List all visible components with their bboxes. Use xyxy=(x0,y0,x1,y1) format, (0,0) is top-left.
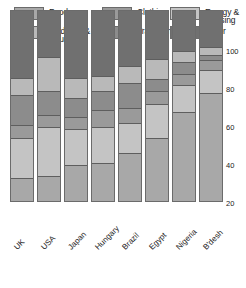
bar-segment xyxy=(11,178,33,201)
bar-segment xyxy=(92,110,114,127)
stacked-bar xyxy=(145,10,169,202)
bar-segment xyxy=(11,95,33,125)
bar-segment xyxy=(173,51,195,62)
bar-segment xyxy=(200,11,222,47)
bar-segment xyxy=(146,11,168,59)
stacked-bar xyxy=(37,10,61,202)
bar-segment xyxy=(173,85,195,112)
x-axis-category-labels: UKUSAJapanHungaryBrazilEgyptNigeriaB'des… xyxy=(0,244,246,288)
stacked-bar-plot-area xyxy=(0,48,246,248)
bar-segment xyxy=(38,176,60,201)
bar-segment xyxy=(146,79,168,90)
y-axis-tick-label: 100 xyxy=(226,48,239,56)
y-axis: 10080604020 xyxy=(220,48,246,248)
bar-segment xyxy=(38,11,60,57)
y-axis-tick-label: 40 xyxy=(226,162,234,170)
bar-segment xyxy=(173,11,195,51)
bar-segment xyxy=(146,138,168,201)
bar-segment xyxy=(146,104,168,138)
bar-segment xyxy=(92,163,114,201)
bar-segment xyxy=(11,125,33,138)
bar-segment xyxy=(65,129,87,165)
y-axis-tick-label: 20 xyxy=(226,200,234,208)
bar-segment xyxy=(119,123,141,153)
y-axis-tick-label: 60 xyxy=(226,124,234,132)
bar-segment xyxy=(119,66,141,83)
stacked-bar xyxy=(64,10,88,202)
stacked-bar xyxy=(172,10,196,202)
bar-segment xyxy=(119,83,141,108)
bar-segment xyxy=(65,11,87,78)
bar-segment xyxy=(200,70,222,93)
bar-segment xyxy=(38,115,60,126)
bar-segment xyxy=(200,60,222,70)
bar-segment xyxy=(92,127,114,163)
bar-segment xyxy=(38,91,60,116)
bar-segment xyxy=(92,76,114,91)
bar-segment xyxy=(119,153,141,201)
bar-segment xyxy=(65,117,87,128)
bar-segment xyxy=(146,59,168,80)
bar-segment xyxy=(173,62,195,73)
bar-segment xyxy=(65,98,87,117)
bar-segment xyxy=(65,78,87,99)
bar-segment xyxy=(92,11,114,76)
bar-segment xyxy=(119,108,141,123)
bar-segment xyxy=(11,138,33,178)
y-axis-tick-label: 80 xyxy=(226,86,234,94)
bar-segment xyxy=(200,47,222,55)
bar-segment xyxy=(173,74,195,85)
stacked-bar xyxy=(10,10,34,202)
bar-segment xyxy=(38,127,60,176)
bar-segment xyxy=(11,11,33,78)
bar-segment xyxy=(38,57,60,91)
bar-segment xyxy=(92,91,114,110)
stacked-bar xyxy=(118,10,142,202)
bar-segment xyxy=(11,78,33,95)
stacked-bar xyxy=(91,10,115,202)
bar-segment xyxy=(119,11,141,66)
bar-segment xyxy=(173,112,195,201)
bar-segment xyxy=(65,165,87,201)
bar-segment xyxy=(200,93,222,201)
bar-segment xyxy=(146,91,168,104)
